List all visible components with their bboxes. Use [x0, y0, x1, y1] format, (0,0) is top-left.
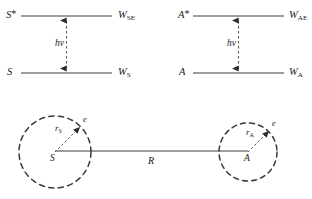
sensitizer-ground-energy-label: WS	[118, 67, 131, 78]
energy-transfer-diagram: S* WSE S WS hν A* WAE A WA hν S rS e A r…	[0, 0, 312, 199]
activator-energy-diagram	[193, 16, 284, 73]
sensitizer-ground-state-label: S	[7, 67, 12, 78]
sensitizer-radius-label: rS	[55, 124, 62, 133]
sensitizer-electron-label: e	[83, 115, 87, 124]
sensitizer-excited-state-label: S*	[6, 10, 16, 21]
activator-photon-energy-label: hν	[227, 39, 236, 49]
separation-distance-label: R	[148, 156, 154, 166]
activator-excited-energy-label: WAE	[289, 10, 307, 21]
sensitizer-energy-diagram	[21, 16, 112, 73]
diagram-canvas	[0, 0, 312, 199]
sensitizer-photon-energy-label: hν	[55, 39, 64, 49]
activator-radius-label: rA	[246, 128, 254, 137]
activator-electron-label: e	[272, 119, 276, 128]
activator-excited-state-label: A*	[178, 10, 189, 21]
sensitizer-center-label: S	[50, 154, 55, 164]
activator-ground-state-label: A	[179, 67, 185, 78]
activator-ground-energy-label: WA	[289, 67, 303, 78]
sensitizer-excited-energy-label: WSE	[118, 10, 135, 21]
activator-center-label: A	[244, 154, 250, 164]
